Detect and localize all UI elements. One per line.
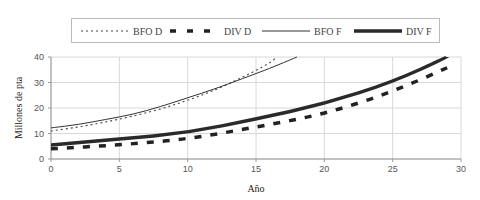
y-tick-label: 40 <box>34 52 44 62</box>
x-axis-title: Año <box>247 183 264 194</box>
y-tick-label: 10 <box>34 129 44 139</box>
x-axis-ticks: 051015202530 <box>48 159 466 174</box>
gridlines <box>51 57 461 159</box>
legend-label: BFO D <box>133 26 162 37</box>
legend-label: BFO F <box>314 26 342 37</box>
x-tick-label: 0 <box>48 164 53 174</box>
x-tick-label: 20 <box>319 164 329 174</box>
x-tick-label: 10 <box>183 164 193 174</box>
x-tick-label: 5 <box>117 164 122 174</box>
y-tick-label: 30 <box>34 78 44 88</box>
legend-label: DIV D <box>224 26 251 37</box>
y-tick-label: 0 <box>39 154 44 164</box>
series-div-f <box>51 57 447 145</box>
series-div-d <box>51 65 454 149</box>
legend-items: BFO DDIV DBFO FDIV F <box>81 26 432 37</box>
y-axis-ticks: 010203040 <box>34 52 51 164</box>
y-axis-title: Millones de pta <box>13 76 24 139</box>
legend-label: DIV F <box>406 26 432 37</box>
x-tick-label: 30 <box>456 164 466 174</box>
line-chart: 010203040 051015202530 Año Millones de p… <box>0 0 480 200</box>
x-tick-label: 15 <box>251 164 261 174</box>
series-lines <box>51 57 454 149</box>
y-tick-label: 20 <box>34 103 44 113</box>
x-tick-label: 25 <box>388 164 398 174</box>
